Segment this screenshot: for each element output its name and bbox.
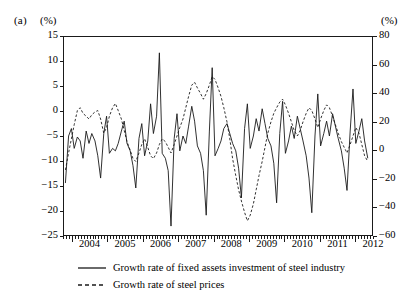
x-axis-minor-tick	[63, 236, 64, 239]
x-axis-tick-label: 2011	[318, 239, 358, 250]
left-axis-tick-mark	[60, 211, 63, 212]
left-axis-tick-mark	[60, 36, 63, 37]
figure-panel: (a) (%) (%) 151050−5−10−15−20−25 8060402…	[0, 0, 406, 298]
right-axis-tick-mark	[373, 150, 377, 151]
legend-swatch-solid	[78, 263, 106, 272]
x-axis-minor-tick	[66, 236, 67, 239]
left-axis-tick-label: 0	[22, 105, 58, 116]
legend-label: Growth rate of steel prices	[113, 279, 224, 290]
right-axis-tick-label: 40	[379, 87, 406, 98]
x-axis-tick-label: 2005	[105, 239, 145, 250]
left-axis-tick-mark	[60, 186, 63, 187]
right-axis-tick-label: 20	[379, 116, 406, 127]
right-axis-tick-label: −20	[379, 173, 406, 184]
legend-swatch-dashed	[78, 280, 106, 289]
series-line	[65, 77, 367, 221]
left-axis-tick-label: 10	[22, 55, 58, 66]
legend-label: Growth rate of fixed assets investment o…	[113, 262, 345, 273]
right-axis-tick-mark	[373, 36, 377, 37]
left-axis-tick-mark	[60, 111, 63, 112]
left-axis-tick-mark	[60, 136, 63, 137]
left-axis-tick-mark	[60, 61, 63, 62]
x-axis-tick-label: 2004	[70, 239, 110, 250]
x-axis-tick-label: 2006	[140, 239, 180, 250]
x-axis-tick-label: 2007	[176, 239, 216, 250]
left-axis-tick-label: 5	[22, 80, 58, 91]
left-axis-tick-label: −5	[22, 130, 58, 141]
left-axis-unit-label: (%)	[40, 14, 57, 26]
left-axis-tick-label: 15	[22, 30, 58, 41]
right-axis-tick-label: 80	[379, 30, 406, 41]
legend-item: Growth rate of steel prices	[78, 276, 345, 293]
right-axis-tick-mark	[373, 207, 377, 208]
plot-canvas	[64, 37, 372, 235]
x-axis-tick-label: 2009	[247, 239, 287, 250]
left-axis-tick-label: −15	[22, 180, 58, 191]
legend: Growth rate of fixed assets investment o…	[78, 259, 345, 293]
left-axis-tick-mark	[60, 86, 63, 87]
right-axis-tick-mark	[373, 93, 377, 94]
left-axis-tick-label: −20	[22, 205, 58, 216]
x-axis-tick-label: 2010	[282, 239, 322, 250]
right-axis-tick-mark	[373, 122, 377, 123]
series-line	[65, 53, 367, 226]
right-axis-tick-label: −40	[379, 201, 406, 212]
left-axis-tick-label: −10	[22, 155, 58, 166]
right-axis-tick-label: 0	[379, 144, 406, 155]
x-axis-tick-label: 2008	[211, 239, 251, 250]
plot-area	[63, 36, 373, 236]
legend-item: Growth rate of fixed assets investment o…	[78, 259, 345, 276]
right-axis-unit-label: (%)	[381, 14, 398, 26]
right-axis-tick-label: 60	[379, 59, 406, 70]
right-axis-tick-mark	[373, 179, 377, 180]
left-axis-tick-mark	[60, 161, 63, 162]
x-axis-tick-label: 2012	[353, 239, 393, 250]
panel-label: (a)	[14, 14, 27, 26]
right-axis-tick-mark	[373, 65, 377, 66]
left-axis-tick-label: −25	[22, 230, 58, 241]
